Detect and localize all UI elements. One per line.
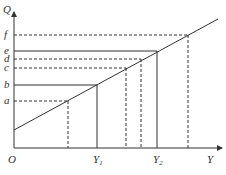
x-mark-label-Y2: Y2 — [153, 153, 163, 167]
diagonal-line — [14, 19, 218, 130]
level-label-b: b — [4, 78, 10, 90]
origin-label: O — [8, 153, 16, 165]
q-axis-label: Q — [3, 3, 11, 15]
level-label-f: f — [4, 28, 9, 40]
level-label-e: e — [4, 44, 9, 56]
x-mark-label-Y1: Y1 — [93, 153, 103, 167]
level-label-a: a — [4, 94, 10, 106]
y-axis-label: Y — [207, 153, 215, 165]
diagram-canvas: abcdef Y1Y2 Q Y O — [0, 0, 226, 175]
